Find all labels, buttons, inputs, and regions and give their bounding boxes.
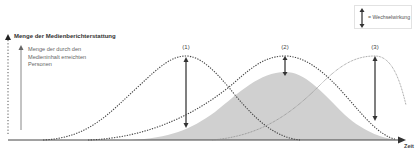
interaction-arrow-3 [373,56,378,121]
y-subaxis-arrowhead-icon [19,45,24,50]
y-axis-arrowhead-icon [5,34,11,40]
y-subaxis-title: Menge der durch den Medieninhalt erreich… [28,46,98,69]
legend-label: = Wechselwirkung [368,14,410,20]
legend-box: = Wechselwirkung [354,5,412,29]
peak-label-3: (3) [371,44,378,50]
interaction-arrow-2 [283,56,288,76]
peak-label-2: (2) [281,44,288,50]
interaction-arrow-1 [184,57,189,128]
audience-reach-area [130,72,400,140]
y-axis-title: Menge der Medienberichterstattung [14,33,116,39]
peak-label-1: (1) [182,44,189,50]
x-axis-label: Zeit [404,143,414,149]
double-arrow-icon [358,8,366,28]
